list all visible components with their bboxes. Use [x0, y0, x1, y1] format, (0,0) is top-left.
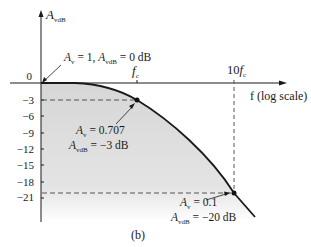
tenfc-sub: c — [243, 71, 246, 79]
fc-sub: c — [136, 72, 139, 80]
cutoff-b-sub: vdB — [76, 146, 88, 154]
decade-b-sub: vdB — [178, 218, 190, 226]
tenfc-label: 10fc — [227, 64, 246, 79]
fc-label: fc — [132, 64, 139, 80]
decade-line2: = −20 dB — [190, 211, 237, 223]
cutoff-annotation-line1: Av = 0.707 — [76, 125, 125, 139]
cutoff-a: A — [76, 124, 83, 136]
y-axis-title: AvdB — [46, 8, 66, 24]
decade-line1: = 0.1 — [191, 196, 218, 208]
decade-a: A — [180, 196, 187, 208]
cutoff-b: A — [69, 139, 76, 151]
y-title-sub: vdB — [54, 16, 66, 24]
unity-leader — [44, 65, 61, 81]
unity-annotation: Av = 1, AvdB = 0 dB — [64, 52, 151, 66]
decade-point — [232, 191, 237, 196]
y-tick-minus15: −15 — [8, 160, 34, 171]
y-tick-minus12: −12 — [8, 144, 34, 155]
y-tick-minus6: −6 — [8, 111, 34, 122]
y-tick-minus3: −3 — [8, 95, 34, 106]
y-axis-arrow-icon — [39, 10, 44, 17]
cutoff-line2: = −3 dB — [88, 139, 129, 151]
x-axis-title: f (log scale) — [250, 90, 307, 102]
y-tick-minus18: −18 — [8, 177, 34, 188]
decade-b: A — [171, 211, 178, 223]
y-tick-minus21: −21 — [8, 192, 34, 203]
unity-b-sub: vdB — [105, 58, 117, 66]
x-axis-arrow-icon — [279, 81, 287, 86]
cutoff-annotation-line2: AvdB = −3 dB — [69, 140, 128, 154]
tenfc-prefix: 10 — [227, 63, 240, 77]
y-tick-minus9: −9 — [8, 128, 34, 139]
decade-annotation-line2: AvdB = −20 dB — [171, 212, 236, 226]
unity-eq2: = 0 dB — [117, 51, 151, 63]
bode-plot-svg — [0, 0, 311, 247]
y-title-main: A — [46, 7, 54, 22]
decade-annotation-line1: Av = 0.1 — [180, 197, 217, 211]
figure-caption: (b) — [131, 229, 145, 241]
cutoff-point — [135, 98, 140, 103]
y-tick-0: 0 — [6, 71, 32, 82]
unity-eq1: = 1, — [75, 51, 99, 63]
unity-a: A — [64, 51, 71, 63]
cutoff-line1: = 0.707 — [87, 124, 125, 136]
